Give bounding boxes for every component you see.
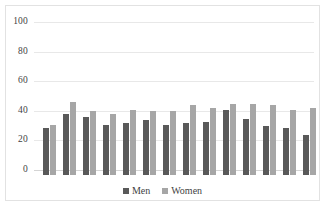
y-tick-label-100: 100 bbox=[0, 17, 28, 27]
bar-group bbox=[119, 27, 139, 175]
bar-women[interactable] bbox=[50, 125, 56, 175]
bar-chart-figure: 020406080100 MenWomen bbox=[0, 0, 326, 220]
bar-men[interactable] bbox=[183, 123, 189, 175]
bar-men[interactable] bbox=[83, 117, 89, 175]
bar-women[interactable] bbox=[250, 104, 256, 175]
bar-women[interactable] bbox=[90, 111, 96, 175]
bar-group bbox=[99, 27, 119, 175]
bar-women[interactable] bbox=[210, 108, 216, 175]
bar-women[interactable] bbox=[310, 108, 316, 175]
y-tick-label-0: 0 bbox=[0, 165, 28, 175]
bar-women[interactable] bbox=[170, 111, 176, 175]
bar-men[interactable] bbox=[283, 128, 289, 175]
legend-entry-women[interactable]: Women bbox=[162, 186, 202, 196]
bar-group bbox=[79, 27, 99, 175]
bar-men[interactable] bbox=[63, 114, 69, 175]
bar-women[interactable] bbox=[130, 110, 136, 175]
bar-men[interactable] bbox=[163, 125, 169, 175]
y-tick-label-20: 20 bbox=[0, 136, 28, 146]
chart-legend: MenWomen bbox=[6, 186, 319, 196]
y-tick-label-80: 80 bbox=[0, 47, 28, 57]
bar-group bbox=[39, 27, 59, 175]
bar-men[interactable] bbox=[203, 122, 209, 175]
bar-men[interactable] bbox=[123, 123, 129, 175]
legend-entry-men[interactable]: Men bbox=[123, 186, 150, 196]
bar-women[interactable] bbox=[190, 105, 196, 175]
y-tick-label-40: 40 bbox=[0, 106, 28, 116]
bar-group bbox=[199, 27, 219, 175]
bar-men[interactable] bbox=[223, 110, 229, 175]
legend-swatch-icon-men bbox=[123, 188, 129, 194]
bar-group bbox=[179, 27, 199, 175]
bar-group bbox=[299, 27, 319, 175]
bar-men[interactable] bbox=[43, 128, 49, 175]
bar-group bbox=[259, 27, 279, 175]
legend-label: Women bbox=[171, 186, 202, 196]
bar-men[interactable] bbox=[143, 120, 149, 175]
bar-women[interactable] bbox=[290, 110, 296, 175]
bar-women[interactable] bbox=[110, 114, 116, 175]
bar-group bbox=[219, 27, 239, 175]
legend-label: Men bbox=[132, 186, 150, 196]
bar-men[interactable] bbox=[303, 135, 309, 175]
bar-women[interactable] bbox=[230, 104, 236, 175]
bar-women[interactable] bbox=[150, 111, 156, 175]
y-tick-label-60: 60 bbox=[0, 76, 28, 86]
legend-swatch-icon-women bbox=[162, 188, 168, 194]
bar-group bbox=[139, 27, 159, 175]
bar-group bbox=[159, 27, 179, 175]
bar-men[interactable] bbox=[263, 126, 269, 175]
bar-group bbox=[279, 27, 299, 175]
bar-women[interactable] bbox=[270, 105, 276, 175]
bar-men[interactable] bbox=[103, 125, 109, 175]
gridline-100 bbox=[34, 22, 314, 23]
bar-group bbox=[239, 27, 259, 175]
bar-groups-container bbox=[39, 27, 319, 175]
plot-area bbox=[39, 27, 319, 175]
bar-women[interactable] bbox=[70, 102, 76, 175]
chart-plot-frame: 020406080100 MenWomen bbox=[5, 5, 320, 201]
bar-group bbox=[59, 27, 79, 175]
bar-men[interactable] bbox=[243, 119, 249, 175]
